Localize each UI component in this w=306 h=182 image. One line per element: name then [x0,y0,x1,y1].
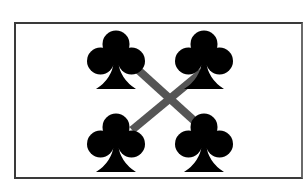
club-icon-top-right [175,31,233,90]
club-icon-top-left [87,31,145,90]
club-icon-bottom-right [175,114,233,173]
x-connector [132,68,202,130]
clubs-figure [0,0,306,182]
